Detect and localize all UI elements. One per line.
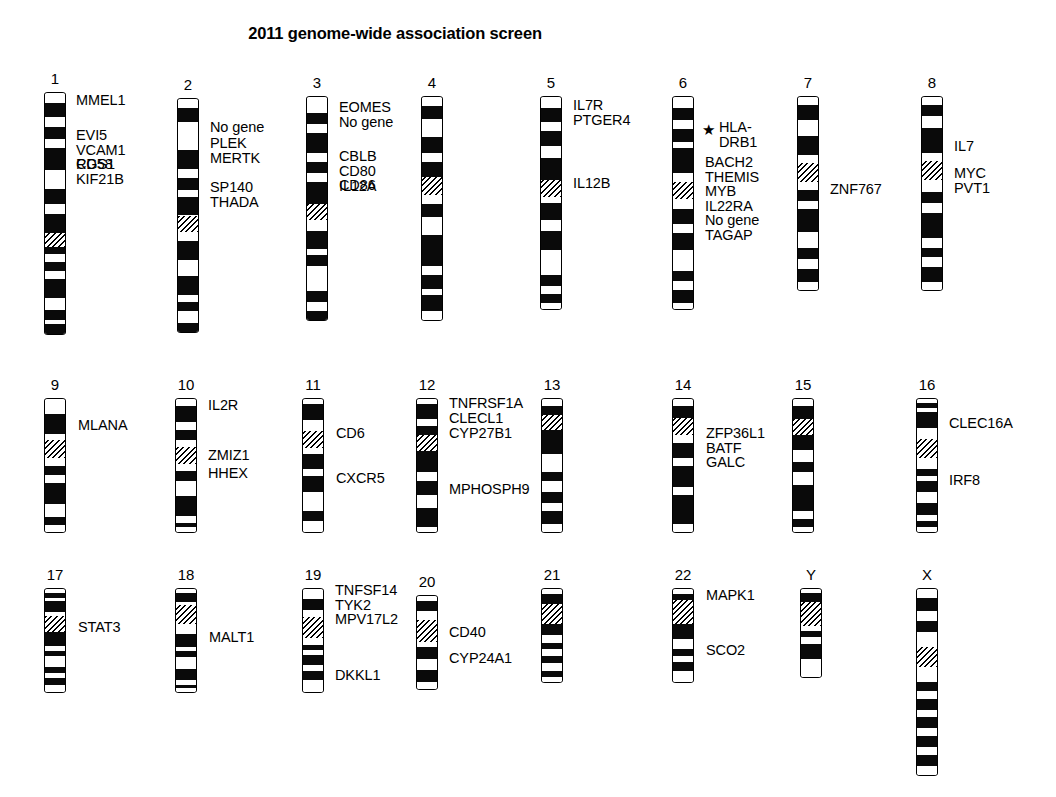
chromosome-band-light [673, 524, 693, 532]
chromosome-band-dark [178, 178, 198, 190]
chromosome-8: 8IL7MYCPVT1 [921, 96, 943, 291]
chromosome-number-label: 1 [51, 71, 59, 86]
chromosome-band-dark [673, 209, 693, 224]
chromosome-band-light [673, 639, 693, 648]
chromosome-17: 17STAT3 [44, 588, 66, 693]
chromosome-band-acen [917, 647, 937, 667]
gene-label: THADA [210, 195, 259, 210]
chromosome-band-light [917, 527, 937, 532]
chromosome-band-light [307, 173, 327, 182]
gene-label: CYP24A1 [449, 651, 512, 666]
chromosome-band-light [176, 527, 196, 532]
chromosome-band-light [422, 266, 442, 275]
ideogram-18 [175, 588, 197, 693]
gene-label: STAT3 [78, 620, 120, 635]
ideogram-6 [672, 96, 694, 310]
chromosome-band-light [417, 495, 437, 508]
chromosome-band-dark [541, 231, 561, 250]
ideogram-Y [800, 588, 822, 678]
chromosome-band-dark [917, 717, 937, 728]
chromosome-number-label: 18 [178, 567, 195, 582]
chromosome-band-light [542, 663, 562, 670]
chromosome-4: 4 [421, 96, 443, 321]
chromosome-band-dark [417, 426, 437, 435]
chromosome-band-acen [422, 177, 442, 195]
chromosome-band-light [176, 422, 196, 430]
chromosome-band-light [422, 153, 442, 162]
chromosome-band-light [303, 521, 323, 532]
figure-title: 2011 genome-wide association screen [0, 24, 790, 43]
chromosome-band-light [417, 419, 437, 426]
chromosome-band-light [303, 610, 323, 617]
chromosome-number-label: 22 [675, 567, 692, 582]
gene-label: ZFP36L1 [706, 426, 765, 441]
chromosome-band-light [417, 659, 437, 670]
chromosome-band-light [422, 217, 442, 235]
chromosome-number-label: X [922, 567, 932, 582]
gene-label-group: SCO2 [706, 643, 745, 658]
chromosome-band-light [793, 511, 813, 519]
chromosome-band-light [922, 116, 942, 128]
chromosome-band-light [917, 589, 937, 598]
chromosome-20: 20CD40CYP24A1 [416, 595, 438, 690]
chromosome-band-light [798, 201, 818, 209]
chromosome-5: 5IL7RPTGER4IL12B [540, 96, 562, 310]
gene-label: MPV17L2 [335, 612, 398, 627]
chromosome-band-dark [917, 469, 937, 476]
gene-label-group: IL7RPTGER4 [573, 98, 630, 127]
gene-label: TAGAP [705, 228, 759, 243]
ideogram-13 [541, 398, 563, 533]
chromosome-band-light [417, 682, 437, 689]
chromosome-15: 15 [792, 398, 814, 533]
chromosome-band-light [542, 636, 562, 643]
chromosome-band-light [673, 487, 693, 495]
chromosome-band-dark [307, 255, 327, 266]
chromosome-6: 6★HLA-DRB1BACH2THEMISMYBIL22RANo geneTAG… [672, 96, 694, 310]
chromosome-band-light [178, 169, 198, 178]
chromosome-number-label: 6 [679, 75, 687, 90]
ideogram-20 [416, 595, 438, 690]
chromosome-band-dark [922, 213, 942, 238]
gene-label: IL22RA [705, 199, 759, 214]
chromosome-band-light [45, 525, 65, 532]
chromosome-band-light [917, 428, 937, 439]
chromosome-band-dark [673, 148, 693, 173]
chromosome-band-dark [178, 150, 198, 169]
gene-label-group: CD40 [449, 625, 486, 640]
chromosome-number-label: 10 [178, 377, 195, 392]
chromosome-band-dark [917, 412, 937, 428]
chromosome-band-light [176, 464, 196, 471]
chromosome-band-light [176, 624, 196, 634]
chromosome-16: 16CLEC16AIRF8 [916, 398, 938, 533]
gene-label-group: TNFRSF1ACLECL1 [449, 396, 523, 425]
chromosome-band-dark [45, 103, 65, 117]
chromosome-band-dark [417, 451, 437, 472]
chromosome-number-label: 4 [428, 75, 436, 90]
gene-label-group: No gene [210, 120, 264, 135]
chromosome-band-dark [307, 311, 327, 320]
chromosome-band-light [45, 475, 65, 483]
chromosome-band-dark [542, 472, 562, 481]
chromosome-band-dark [178, 108, 198, 122]
gene-label: MALT1 [209, 630, 254, 645]
chromosome-band-light [673, 120, 693, 128]
chromosome-band-light [793, 399, 813, 406]
chromosome-band-light [307, 124, 327, 133]
gene-label-group: MMEL1 [76, 93, 125, 108]
chromosome-band-dark [45, 483, 65, 504]
chromosome-band-light [176, 481, 196, 496]
gene-label: KIF21B [76, 172, 124, 187]
chromosome-band-light [542, 454, 562, 473]
gene-label-group: CD6 [336, 426, 365, 441]
chromosome-band-light [793, 527, 813, 532]
chromosome-band-acen [176, 447, 196, 464]
ideogram-22 [672, 588, 694, 683]
chromosome-band-dark [917, 736, 937, 747]
chromosome-number-label: 7 [804, 75, 812, 90]
gene-label: MMEL1 [76, 93, 125, 108]
chromosome-band-dark [176, 634, 196, 646]
chromosome-band-light [176, 440, 196, 447]
chromosome-band-light [417, 611, 437, 620]
chromosome-band-acen [542, 604, 562, 624]
gene-label-group: CLEC16A [949, 416, 1013, 431]
